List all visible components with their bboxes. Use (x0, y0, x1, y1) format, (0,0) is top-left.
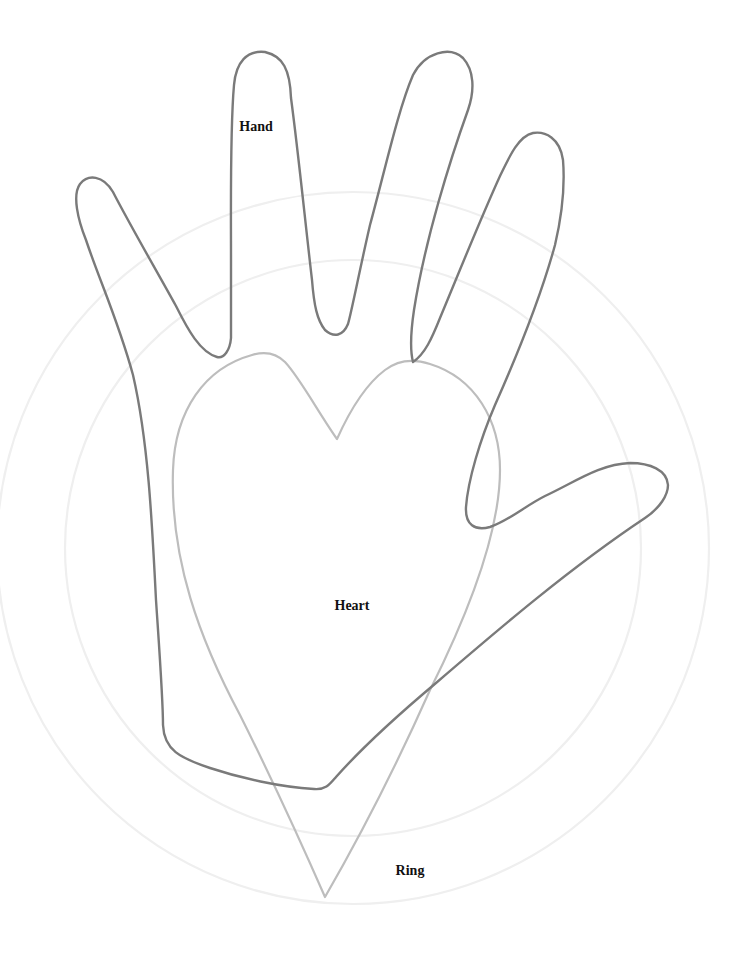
diagram-canvas (0, 0, 744, 954)
heart-label: Heart (335, 599, 370, 613)
ring-label: Ring (396, 864, 425, 878)
hand-label: Hand (239, 120, 272, 134)
